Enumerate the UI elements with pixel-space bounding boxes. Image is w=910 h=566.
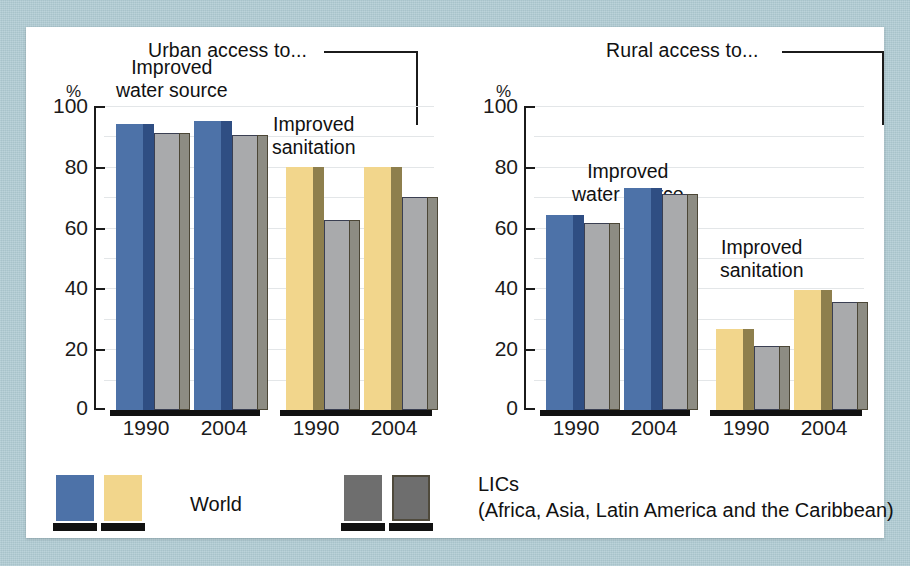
bar-rural-water-1990-world[interactable]	[546, 215, 584, 410]
legend-swatch-world-yellow	[104, 475, 142, 531]
y-axis-rural	[524, 106, 526, 410]
swatch-body	[104, 475, 142, 521]
xlabel-urban-water-2004: 2004	[186, 416, 262, 440]
bar-side	[651, 188, 662, 410]
legend-swatch-world-blue	[56, 475, 94, 531]
xlabel-rural-sanitation-2004: 2004	[786, 416, 862, 440]
bar-rural-sanitation-1990-lics[interactable]	[754, 346, 790, 410]
annotation-urban-water-line2: water source	[116, 79, 228, 102]
y-tick-label-60: 60	[65, 215, 88, 239]
bar-rural-water-1990-lics[interactable]	[584, 223, 620, 410]
y-tick-60: 60	[94, 228, 105, 230]
annotation-urban-water-line1: Improved	[116, 56, 228, 79]
bar-side	[609, 223, 620, 410]
chart-card: Urban access to... % 100 80 60	[26, 27, 884, 538]
y-tick-label-0: 0	[76, 396, 88, 420]
bar-side	[257, 135, 268, 410]
panel-rural: Rural access to... % 100 80 60	[456, 27, 884, 467]
y-tick-label-40: 40	[495, 276, 518, 300]
y-tick-label-20: 20	[65, 337, 88, 361]
legend-sublabel-lics: (Africa, Asia, Latin America and the Car…	[478, 497, 894, 523]
legend-swatches-world	[56, 475, 142, 531]
legend-swatch-lics-outlined	[392, 475, 430, 531]
swatch-body	[56, 475, 94, 521]
xlabel-urban-sanitation-1990: 1990	[278, 416, 354, 440]
bar-urban-water-2004-lics[interactable]	[232, 135, 268, 410]
swatch-base	[341, 523, 385, 531]
plot-area-rural: 100 80 60 40 20 0 Improved water source	[534, 106, 864, 410]
bar-rural-water-2004-world[interactable]	[624, 188, 662, 410]
plot-area-urban: 100 80 60 40 20 0 Improved water source	[104, 106, 434, 410]
y-tick-100: 100	[524, 106, 535, 108]
y-tick-label-100: 100	[483, 94, 518, 118]
bar-side	[779, 346, 790, 410]
bar-side	[857, 302, 868, 410]
bar-urban-sanitation-1990-world[interactable]	[286, 167, 324, 410]
y-tick-0: 0	[524, 408, 535, 410]
panel-urban: Urban access to... % 100 80 60	[26, 27, 456, 467]
swatch-body	[392, 475, 430, 521]
swatch-base	[389, 523, 433, 531]
y-tick-label-80: 80	[65, 154, 88, 178]
bar-side	[349, 220, 360, 410]
xlabel-rural-water-1990: 1990	[538, 416, 614, 440]
bar-rural-sanitation-2004-lics[interactable]	[832, 302, 868, 410]
bar-urban-water-2004-world[interactable]	[194, 121, 232, 410]
annotation-urban-water: Improved water source	[116, 56, 228, 102]
y-axis-urban	[94, 106, 96, 410]
y-tick-40: 40	[94, 288, 105, 290]
bar-urban-water-1990-world[interactable]	[116, 124, 154, 410]
y-tick-0: 0	[94, 408, 105, 410]
bar-urban-sanitation-2004-lics[interactable]	[402, 197, 438, 410]
bar-side	[391, 167, 402, 410]
y-tick-80: 80	[94, 167, 105, 169]
y-tick-20: 20	[524, 349, 535, 351]
bar-side	[313, 167, 324, 410]
bargroup-urban-sanitation	[280, 106, 432, 410]
y-tick-label-100: 100	[53, 94, 88, 118]
bargroup-rural-sanitation	[710, 106, 862, 410]
y-tick-40: 40	[524, 288, 535, 290]
xlabel-rural-sanitation-1990: 1990	[708, 416, 784, 440]
bar-rural-sanitation-1990-world[interactable]	[716, 329, 754, 410]
bar-side	[821, 290, 832, 410]
swatch-body	[344, 475, 382, 521]
bar-side	[687, 194, 698, 410]
bar-urban-sanitation-2004-world[interactable]	[364, 167, 402, 410]
y-tick-label-60: 60	[495, 215, 518, 239]
y-tick-20: 20	[94, 349, 105, 351]
panel-rural-heading: Rural access to...	[606, 39, 758, 62]
bar-rural-sanitation-2004-world[interactable]	[794, 290, 832, 410]
legend-label-lics: LICs	[478, 471, 519, 497]
chart-legend: World LICs (Africa, Asia, Latin America …	[56, 467, 868, 537]
panel-urban-header: Urban access to...	[26, 39, 456, 79]
swatch-base	[53, 523, 97, 531]
y-tick-label-80: 80	[495, 154, 518, 178]
bar-side	[427, 197, 438, 410]
panel-rural-header: Rural access to...	[456, 39, 884, 79]
y-tick-label-20: 20	[495, 337, 518, 361]
y-tick-100: 100	[94, 106, 105, 108]
y-tick-60: 60	[524, 228, 535, 230]
bargroup-rural-water	[540, 106, 690, 410]
bar-side	[143, 124, 154, 410]
xlabel-urban-sanitation-2004: 2004	[356, 416, 432, 440]
legend-swatch-lics-solid	[344, 475, 382, 531]
bar-urban-water-1990-lics[interactable]	[154, 133, 190, 410]
bar-side	[179, 133, 190, 410]
legend-swatches-lics	[344, 475, 430, 531]
xlabel-rural-water-2004: 2004	[616, 416, 692, 440]
bar-urban-sanitation-1990-lics[interactable]	[324, 220, 360, 410]
y-tick-label-40: 40	[65, 276, 88, 300]
bar-side	[221, 121, 232, 410]
bar-side	[573, 215, 584, 410]
bar-side	[743, 329, 754, 410]
bar-rural-water-2004-lics[interactable]	[662, 194, 698, 410]
swatch-base	[101, 523, 145, 531]
y-tick-80: 80	[524, 167, 535, 169]
y-tick-label-0: 0	[506, 396, 518, 420]
xlabel-urban-water-1990: 1990	[108, 416, 184, 440]
legend-label-world: World	[190, 491, 242, 517]
bargroup-urban-water	[110, 106, 260, 410]
